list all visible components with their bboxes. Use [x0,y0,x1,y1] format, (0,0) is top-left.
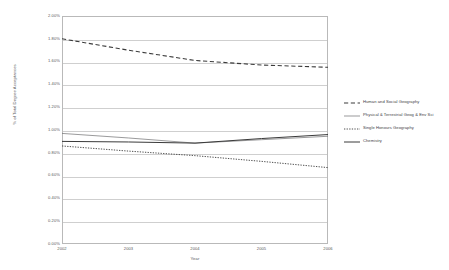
y-tick-label: 1.40% [26,82,60,86]
legend-swatch-icon [344,113,360,119]
legend-label: Chemistry [363,138,382,144]
y-tick-label: 2.00% [26,14,60,18]
line-chart: 2.00%1.80%1.60%1.40%1.20%1.00%0.80%0.60%… [0,0,449,270]
x-tick-label: 2005 [242,247,282,251]
series-line [62,39,328,68]
legend-label: Single Honours Geography [363,125,414,131]
legend-item[interactable]: Human and Social Geography [344,99,447,106]
series-line [62,146,328,168]
x-tick-label: 2002 [42,247,82,251]
legend-label: Human and Social Geography [363,99,419,105]
x-tick-label: 2003 [109,247,149,251]
y-tick-label: 0.40% [26,196,60,200]
y-axis-title: % of Total Degree Acceptances [12,25,17,165]
legend-swatch-icon [344,139,360,145]
legend-item[interactable]: Physical & Terrestrial Geog & Env Sci [344,112,447,119]
legend-swatch-icon [344,100,360,106]
legend-swatch-icon [344,126,360,132]
legend-label: Physical & Terrestrial Geog & Env Sci [363,112,433,118]
y-tick-label: 1.20% [26,105,60,109]
y-tick-label: 1.60% [26,59,60,63]
y-tick-label: 1.80% [26,37,60,41]
y-tick-label: 0.60% [26,173,60,177]
x-axis-title: Year [62,256,328,261]
y-tick-label: 1.00% [26,128,60,132]
x-tick-label: 2006 [308,247,348,251]
y-axis: 2.00%1.80%1.60%1.40%1.20%1.00%0.80%0.60%… [22,16,60,244]
x-tick-label: 2004 [175,247,215,251]
y-tick-label: 0.00% [26,242,60,246]
series-layer [62,16,328,244]
chart-legend: Human and Social GeographyPhysical & Ter… [344,99,447,151]
y-tick-label: 0.80% [26,151,60,155]
legend-item[interactable]: Single Honours Geography [344,125,447,132]
y-tick-label: 0.20% [26,219,60,223]
legend-item[interactable]: Chemistry [344,138,447,145]
